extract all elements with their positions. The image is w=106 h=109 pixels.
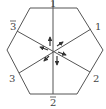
label-top-right: 1: [95, 21, 101, 32]
label-top-left: 3: [10, 21, 16, 32]
label-bottom-left: 3: [9, 73, 15, 84]
label-bottom-right: 2: [93, 73, 99, 84]
label-bottom: 2: [50, 97, 56, 108]
label-top: 1: [50, 0, 56, 9]
arrow-upper-right-icon: [57, 42, 63, 46]
hexagon-axes-diagram: 1 1 2 2 3 3: [0, 0, 106, 109]
